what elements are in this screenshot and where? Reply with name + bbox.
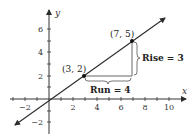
run-brace (85, 78, 131, 84)
x-axis-label: x (182, 86, 187, 96)
coordinate-plane: −2 2 4 6 8 10 6 4 2 −2 x y (3, 2) (7, 5)… (0, 0, 195, 137)
x-tick-label: 10 (164, 103, 174, 112)
y-tick-label: 4 (38, 48, 43, 57)
point-7-5 (130, 39, 134, 43)
point-3-2 (82, 74, 86, 78)
rise-label: Rise = 3 (142, 53, 184, 63)
x-tick-label: −2 (19, 103, 31, 112)
x-tick-label: 6 (118, 103, 123, 112)
y-tick-label: 6 (38, 25, 43, 34)
y-tick-label: 2 (38, 72, 43, 81)
x-tick-label: 2 (70, 103, 75, 112)
rise-brace (134, 42, 140, 75)
y-axis-label: y (54, 8, 61, 18)
point-label: (3, 2) (62, 64, 86, 74)
x-tick-label: 8 (142, 103, 147, 112)
point-label: (7, 5) (110, 29, 134, 39)
run-label: Run = 4 (90, 85, 131, 95)
y-tick-label: −2 (31, 118, 43, 127)
line-tail (15, 120, 22, 125)
x-tick-label: 4 (94, 103, 99, 112)
